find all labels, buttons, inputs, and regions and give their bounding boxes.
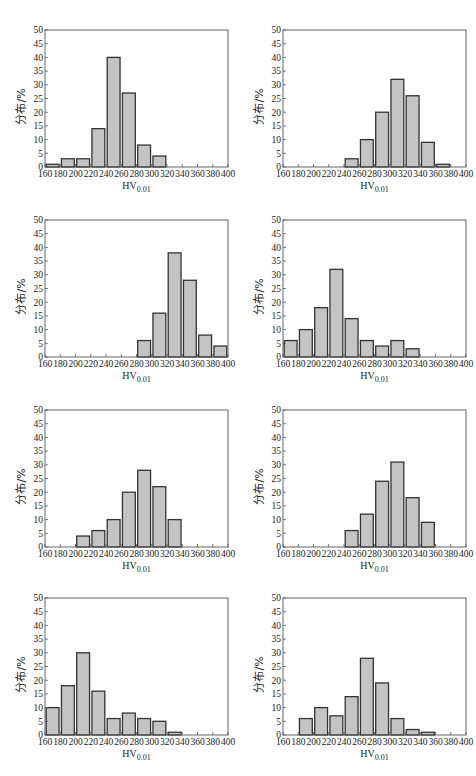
x-tick-label: 360 <box>428 737 443 747</box>
x-tick-label: 260 <box>114 549 129 559</box>
y-tick-label: 25 <box>272 94 282 104</box>
histogram-bar <box>138 341 151 357</box>
histogram-bar <box>153 313 166 357</box>
x-tick-label: 400 <box>459 359 474 369</box>
x-tick-label: 300 <box>383 549 398 559</box>
histogram-bar <box>153 156 166 167</box>
histogram-chart: 0510152025303540455016018020022024026028… <box>238 568 476 760</box>
x-tick-label: 280 <box>367 359 382 369</box>
y-tick-label: 40 <box>34 621 44 631</box>
histogram-bar <box>122 93 135 167</box>
x-tick-label: 220 <box>84 359 99 369</box>
x-tick-label: 220 <box>84 169 99 179</box>
x-axis-label: HV0.01 <box>360 748 388 760</box>
y-axis-label: 分布/% <box>15 468 28 504</box>
y-tick-label: 20 <box>272 488 282 498</box>
x-tick-label: 200 <box>306 169 321 179</box>
x-tick-label: 200 <box>68 549 83 559</box>
y-tick-label: 15 <box>272 311 282 321</box>
x-tick-label: 280 <box>129 549 144 559</box>
y-tick-label: 10 <box>34 135 44 145</box>
histogram-bar <box>138 719 151 735</box>
x-tick-label: 400 <box>459 549 474 559</box>
histogram-bar <box>345 697 358 735</box>
y-axis-label: 分布/% <box>253 656 266 692</box>
histogram-bar <box>61 159 74 167</box>
x-tick-label: 180 <box>291 737 306 747</box>
x-tick-label: 320 <box>160 549 175 559</box>
y-tick-label: 30 <box>272 80 282 90</box>
x-tick-label: 180 <box>291 169 306 179</box>
y-tick-label: 15 <box>34 501 44 511</box>
histogram-chart: 0510152025303540455016018020022024026028… <box>0 380 238 572</box>
bars <box>345 462 434 547</box>
histogram-chart: 0510152025303540455016018020022024026028… <box>0 568 238 760</box>
histogram-bar <box>376 346 389 357</box>
histogram-bar <box>376 112 389 167</box>
x-tick-label: 200 <box>306 549 321 559</box>
x-tick-label: 340 <box>175 737 190 747</box>
y-tick-label: 50 <box>272 405 282 415</box>
x-tick-label: 380 <box>444 169 459 179</box>
histogram-bar <box>406 498 419 547</box>
x-tick-label: 360 <box>428 169 443 179</box>
y-axis: 05101520253035404550 <box>34 405 49 552</box>
y-tick-label: 25 <box>272 284 282 294</box>
histogram-chart: 0510152025303540455016018020022024026028… <box>238 190 476 382</box>
y-tick-label: 10 <box>272 325 282 335</box>
y-tick-label: 45 <box>34 39 44 49</box>
plot-frame <box>283 598 466 735</box>
x-axis-label: HV0.01 <box>122 748 150 760</box>
y-tick-label: 45 <box>272 229 282 239</box>
histogram-bar <box>391 341 404 357</box>
x-tick-label: 260 <box>352 169 367 179</box>
y-tick-label: 30 <box>272 270 282 280</box>
x-tick-label: 340 <box>413 737 428 747</box>
histogram-bar <box>406 96 419 167</box>
x-tick-label: 160 <box>38 737 53 747</box>
x-tick-label: 200 <box>68 169 83 179</box>
chart-panel-f: 0510152025303540455016018020022024026028… <box>238 380 476 572</box>
chart-panel-c: 0510152025303540455016018020022024026028… <box>0 190 238 382</box>
x-tick-label: 360 <box>190 359 205 369</box>
y-tick-label: 10 <box>34 515 44 525</box>
x-tick-label: 320 <box>398 549 413 559</box>
x-tick-label: 160 <box>38 169 53 179</box>
x-tick-label: 380 <box>206 549 221 559</box>
histogram-bar <box>77 159 90 167</box>
y-tick-label: 40 <box>272 433 282 443</box>
x-tick-label: 240 <box>337 359 352 369</box>
x-tick-label: 340 <box>175 169 190 179</box>
histogram-bar <box>315 308 328 357</box>
histogram-bar <box>345 531 358 547</box>
y-tick-label: 35 <box>34 634 44 644</box>
x-tick-label: 220 <box>84 549 99 559</box>
y-tick-label: 45 <box>34 607 44 617</box>
y-axis: 05101520253035404550 <box>272 593 287 740</box>
y-axis-label: 分布/% <box>15 88 28 124</box>
x-axis: 160180200220240260280300320340360380400 <box>38 544 236 559</box>
y-tick-label: 20 <box>34 298 44 308</box>
x-tick-label: 320 <box>160 359 175 369</box>
y-tick-label: 50 <box>272 593 282 603</box>
x-tick-label: 280 <box>367 737 382 747</box>
x-tick-label: 160 <box>276 359 291 369</box>
x-tick-label: 360 <box>190 549 205 559</box>
x-tick-label: 240 <box>99 549 114 559</box>
x-tick-label: 320 <box>160 169 175 179</box>
y-tick-label: 25 <box>272 662 282 672</box>
y-tick-label: 15 <box>272 501 282 511</box>
y-tick-label: 10 <box>34 703 44 713</box>
x-tick-label: 260 <box>114 169 129 179</box>
y-tick-label: 50 <box>272 215 282 225</box>
y-tick-label: 10 <box>34 325 44 335</box>
y-tick-label: 40 <box>34 433 44 443</box>
histogram-bar <box>360 514 373 547</box>
histogram-bar <box>284 341 297 357</box>
x-tick-label: 400 <box>221 169 236 179</box>
y-tick-label: 50 <box>34 593 44 603</box>
histogram-bar <box>391 462 404 547</box>
y-tick-label: 40 <box>34 53 44 63</box>
y-tick-label: 20 <box>34 676 44 686</box>
bars <box>46 653 181 735</box>
